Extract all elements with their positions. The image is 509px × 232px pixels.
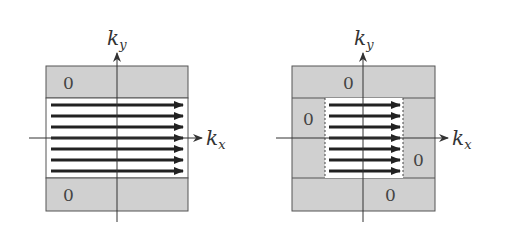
zero-label-right: 0 [413, 150, 424, 170]
ky-label: ky [354, 26, 374, 52]
left-panel: 0 0 ky kx [29, 26, 226, 222]
right-panel: 0 0 0 0 ky kx [276, 26, 472, 222]
zero-label-left: 0 [303, 109, 314, 129]
zero-label-bottom: 0 [63, 185, 74, 205]
kx-label: kx [452, 126, 472, 152]
zero-label-top: 0 [63, 73, 74, 93]
zero-label-bottom: 0 [385, 185, 396, 205]
kx-label: kx [206, 126, 226, 152]
ky-label: ky [107, 26, 127, 52]
zero-label-top: 0 [343, 73, 354, 93]
diagram-canvas: 0 0 ky kx 0 0 0 0 ky kx [0, 0, 509, 232]
